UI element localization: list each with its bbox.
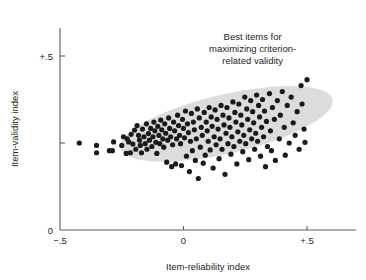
data-point <box>129 132 134 137</box>
data-point <box>232 110 237 115</box>
data-point <box>189 111 194 116</box>
data-point <box>261 134 266 139</box>
scatter-plot-figure: −.50+.50+.5Item-reliability indexItem-va… <box>0 0 366 280</box>
data-point <box>229 134 234 139</box>
best-items-callout: Best items formaximizing criterion-relat… <box>209 31 296 66</box>
data-point <box>173 161 178 166</box>
data-point <box>282 125 287 130</box>
data-point <box>133 147 138 152</box>
data-point <box>223 131 228 136</box>
data-point <box>280 89 285 94</box>
data-point <box>140 126 145 131</box>
data-point <box>293 133 298 138</box>
data-point <box>151 120 156 125</box>
data-point <box>94 143 99 148</box>
data-point <box>283 153 288 158</box>
x-tick-label: −.5 <box>53 235 66 246</box>
data-point <box>208 147 213 152</box>
data-point <box>196 176 201 181</box>
data-point <box>139 150 144 155</box>
data-point <box>246 157 251 162</box>
data-point <box>187 169 192 174</box>
data-point <box>254 92 259 97</box>
data-point <box>255 139 260 144</box>
data-point <box>272 117 277 122</box>
data-point <box>289 94 294 99</box>
data-point <box>141 134 146 139</box>
data-point <box>227 125 232 130</box>
data-point <box>160 136 165 141</box>
data-point <box>262 108 267 113</box>
data-point <box>263 164 268 169</box>
data-point <box>216 156 221 161</box>
data-point <box>77 140 82 145</box>
data-point <box>253 131 258 136</box>
data-point <box>164 160 169 165</box>
data-point <box>172 128 177 133</box>
data-point <box>184 154 189 159</box>
data-point <box>150 134 155 139</box>
data-point <box>143 141 148 146</box>
data-point <box>273 158 278 163</box>
data-point <box>205 128 210 133</box>
data-point <box>156 133 161 138</box>
y-tick-label: +.5 <box>40 51 53 62</box>
data-point <box>265 144 270 149</box>
data-point <box>230 99 235 104</box>
data-point <box>159 127 164 132</box>
data-point <box>190 148 195 153</box>
data-point <box>155 124 160 129</box>
data-point <box>200 133 205 138</box>
data-point <box>278 113 283 118</box>
data-point <box>219 147 224 152</box>
data-point <box>231 144 236 149</box>
x-tick-label: +.5 <box>300 235 313 246</box>
data-point <box>217 136 222 141</box>
data-point <box>218 103 223 108</box>
data-point <box>245 117 250 122</box>
data-point <box>144 121 149 126</box>
data-point <box>177 133 182 138</box>
data-point <box>204 120 209 125</box>
data-point <box>119 143 124 148</box>
data-point <box>226 115 231 120</box>
data-point <box>198 145 203 150</box>
data-point <box>267 91 272 96</box>
data-point <box>220 113 225 118</box>
data-point <box>192 127 197 132</box>
data-point <box>168 134 173 139</box>
data-point <box>179 163 184 168</box>
data-point <box>239 122 244 127</box>
data-point <box>277 136 282 141</box>
data-point <box>176 123 181 128</box>
x-axis-title: Item-reliability index <box>166 261 250 272</box>
data-point <box>248 98 253 103</box>
data-point <box>228 152 233 157</box>
data-point <box>259 125 264 130</box>
data-point <box>180 117 185 122</box>
data-point <box>166 115 171 120</box>
data-point <box>152 128 157 133</box>
annotation-line: Best items for <box>224 31 282 42</box>
data-point <box>170 142 175 147</box>
data-point <box>212 134 217 139</box>
y-axis-title: Item-validity index <box>9 91 20 167</box>
data-point <box>269 148 274 153</box>
data-point <box>132 128 137 133</box>
data-point <box>110 148 115 153</box>
data-point <box>247 127 252 132</box>
data-point <box>175 113 180 118</box>
data-point <box>237 139 242 144</box>
data-point <box>136 133 141 138</box>
data-point <box>207 105 212 110</box>
data-point <box>157 141 162 146</box>
data-point <box>224 105 229 110</box>
data-point <box>158 117 163 122</box>
data-point <box>185 121 190 126</box>
data-point <box>270 105 275 110</box>
data-point <box>94 150 99 155</box>
data-point <box>206 139 211 144</box>
data-point <box>234 161 239 166</box>
data-point <box>128 150 133 155</box>
data-point <box>257 114 262 119</box>
